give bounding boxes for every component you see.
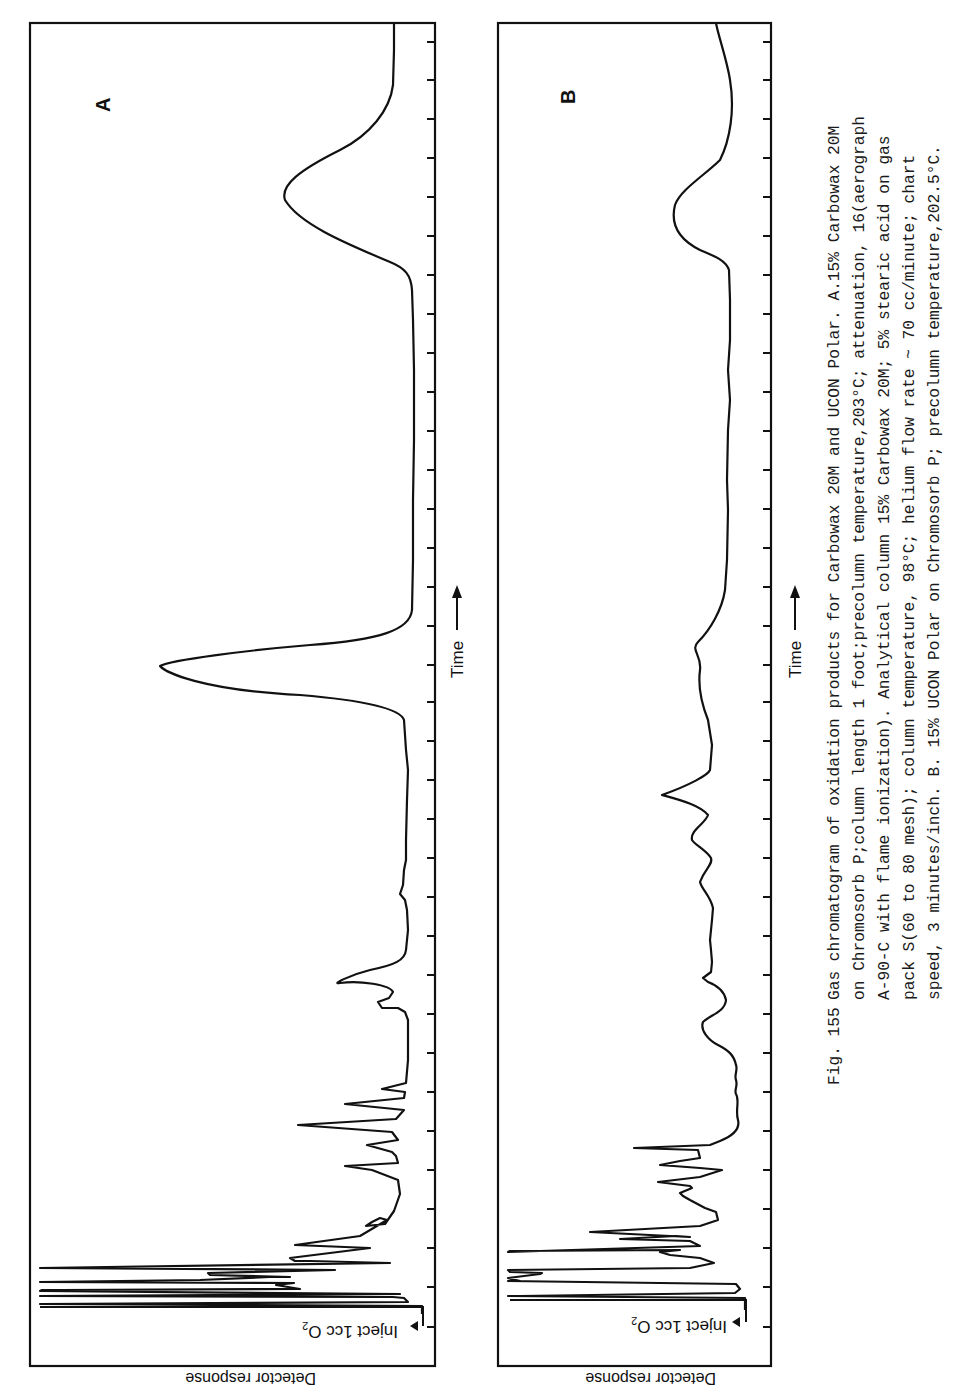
chromatogram-figure: [0, 0, 968, 1396]
